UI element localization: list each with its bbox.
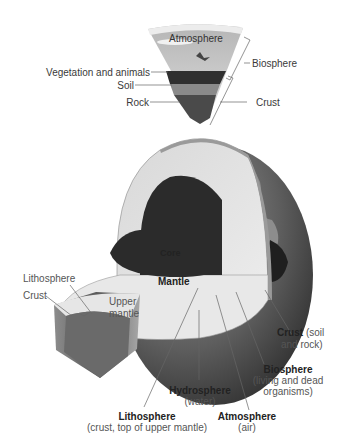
label-atmosphere-title: Atmosphere: [212, 411, 282, 422]
label-lithosphere-note: (crust, top of upper mantle): [72, 422, 222, 433]
label-biosphere-note2: organisms): [248, 386, 328, 397]
label-crust-note: (soil: [306, 327, 324, 338]
earth-layers-diagram: Atmosphere Biosphere Vegetation and anim…: [0, 0, 341, 447]
label-lithosphere-group: Lithosphere (crust, top of upper mantle): [72, 411, 222, 433]
label-hydrosphere-note: (water): [165, 396, 235, 407]
label-core: Core: [160, 248, 181, 259]
label-lithosphere-small: Lithosphere: [23, 273, 75, 284]
vegetation-layer: [166, 71, 226, 84]
label-lithosphere-title: Lithosphere: [72, 411, 222, 422]
label-hydrosphere-group: Hydrosphere (water): [165, 385, 235, 407]
label-atmosphere-note: (air): [212, 422, 282, 433]
soil-layer: [170, 84, 220, 95]
label-crust-title: Crust: [277, 327, 303, 338]
label-crust-wedge: Crust: [256, 97, 280, 108]
rock-layer: [174, 95, 216, 124]
label-atmosphere-wedge: Atmosphere: [169, 33, 223, 44]
label-vegetation-and-animals: Vegetation and animals: [36, 67, 150, 78]
label-atmosphere-group: Atmosphere (air): [212, 411, 282, 433]
label-biosphere-group: Biosphere (living and dead organisms): [248, 364, 328, 397]
label-biosphere: Biosphere: [252, 58, 297, 69]
label-soil: Soil: [110, 80, 134, 91]
label-rock: Rock: [118, 97, 149, 108]
label-mantle: Mantle: [158, 276, 190, 287]
label-crust-small: Crust: [23, 290, 47, 301]
label-upper-mantle-line2: mantle: [109, 308, 139, 319]
label-crust-group: Crust (soil: [277, 327, 324, 338]
label-hydrosphere-title: Hydrosphere: [165, 385, 235, 396]
label-crust-note-line2: and rock): [281, 339, 323, 350]
label-biosphere-note1: (living and dead: [248, 375, 328, 386]
label-upper-mantle-line1: Upper: [109, 296, 136, 307]
label-biosphere-title: Biosphere: [248, 364, 328, 375]
block-front: [64, 311, 130, 378]
